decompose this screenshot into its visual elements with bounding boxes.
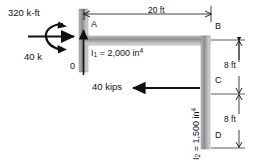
- column-inertia-value: 1,500 in: [191, 112, 201, 144]
- beam-inertia-label: I1 = 2,000 in4: [91, 48, 143, 59]
- dimension-label-span: 20 ft: [148, 6, 165, 15]
- column-inertia-label: I2 = 1,500 in4: [191, 108, 202, 160]
- beam-inertia-equals: =: [97, 48, 107, 58]
- dimension-height-lower: [236, 95, 242, 148]
- joint-label-c: C: [215, 76, 222, 85]
- moment-load-label: 320 k-ft: [8, 8, 40, 18]
- right-column-member-bcd: [201, 36, 210, 149]
- column-inertia-symbol: I: [191, 157, 201, 160]
- origin-label: 0: [70, 62, 75, 71]
- beam-inertia-exp: 4: [139, 47, 143, 54]
- column-inertia-index: 2: [194, 154, 201, 158]
- force-load-label-lower: 40 kips: [92, 82, 122, 92]
- dimension-label-upper: 8 ft: [224, 61, 236, 70]
- joint-label-b: B: [215, 22, 221, 31]
- column-inertia-exp: 4: [190, 108, 197, 112]
- force-load-label-top: 40 k: [24, 52, 42, 62]
- joint-label-a: A: [91, 20, 97, 29]
- beam-member-ab: [84, 36, 210, 45]
- dimension-height-upper: [236, 41, 242, 94]
- column-inertia-equals: =: [191, 144, 201, 154]
- joint-label-d: D: [215, 131, 222, 140]
- dimension-label-lower: 8 ft: [224, 115, 236, 124]
- beam-inertia-value: 2,000 in: [107, 48, 139, 58]
- structural-frame-figure: 320 k-ft 40 k A 0 B C D 20 ft 8 ft 8 ft …: [0, 0, 258, 166]
